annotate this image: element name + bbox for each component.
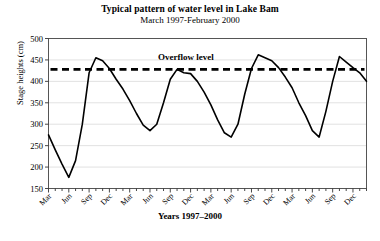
svg-text:Jun: Jun — [141, 192, 155, 206]
svg-text:Jun: Jun — [222, 192, 236, 206]
svg-text:Dec: Dec — [342, 191, 358, 207]
svg-text:Mar: Mar — [200, 191, 216, 207]
svg-text:300: 300 — [30, 119, 43, 129]
svg-text:Jun: Jun — [303, 192, 317, 206]
svg-text:450: 450 — [30, 55, 43, 65]
svg-text:Sep: Sep — [160, 192, 175, 207]
gridlines — [49, 60, 367, 167]
svg-text:Sep: Sep — [242, 192, 257, 207]
chart-title: Typical pattern of water level in Lake B… — [0, 4, 380, 15]
svg-text:Sep: Sep — [323, 192, 338, 207]
svg-text:Mar: Mar — [38, 191, 54, 207]
y-axis-ticks: 150200250300350400450500 — [30, 34, 48, 194]
chart-figure: Typical pattern of water level in Lake B… — [0, 0, 380, 241]
svg-text:Dec: Dec — [99, 191, 115, 207]
svg-text:Jun: Jun — [59, 192, 73, 206]
x-axis-ticks: MarJunSepDecMarJunSepDecMarJunSepDecMarJ… — [38, 189, 367, 208]
svg-text:250: 250 — [30, 141, 43, 151]
svg-text:Mar: Mar — [119, 191, 135, 207]
svg-text:400: 400 — [30, 76, 43, 86]
svg-text:Dec: Dec — [180, 191, 196, 207]
svg-text:500: 500 — [30, 34, 43, 44]
chart-subtitle: March 1997-February 2000 — [0, 15, 380, 26]
svg-text:Mar: Mar — [281, 191, 297, 207]
y-axis-title: Stage heights (cm) — [15, 0, 25, 148]
svg-text:200: 200 — [30, 162, 43, 172]
svg-text:Sep: Sep — [79, 192, 94, 207]
x-axis-title: Years 1997–2000 — [0, 211, 380, 221]
svg-text:Dec: Dec — [261, 191, 277, 207]
overflow-level-label: Overflow level — [158, 52, 214, 62]
data-series-line — [49, 55, 367, 178]
chart-plot-area: 150200250300350400450500 MarJunSepDecMar… — [0, 0, 380, 241]
svg-text:150: 150 — [30, 184, 43, 194]
svg-text:350: 350 — [30, 98, 43, 108]
